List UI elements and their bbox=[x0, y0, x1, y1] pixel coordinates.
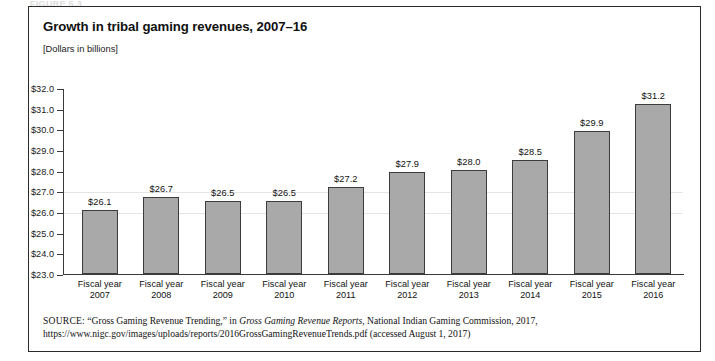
x-axis-category-label: Fiscal year2014 bbox=[508, 279, 552, 301]
bar-chart-plot-area: $32.0$31.0$30.0$29.0$28.0$27.0$26.0$25.0… bbox=[63, 89, 684, 275]
x-axis-category-label: Fiscal year2013 bbox=[447, 279, 491, 301]
bar-group[interactable]: $28.5Fiscal year2014 bbox=[512, 160, 548, 274]
source-note: SOURCE: “Gross Gaming Revenue Trending,”… bbox=[43, 314, 691, 341]
y-axis-tick bbox=[57, 89, 63, 90]
bar-value-label: $27.2 bbox=[334, 174, 357, 184]
bar[interactable] bbox=[389, 172, 425, 273]
y-axis-tick-label: $27.0 bbox=[31, 187, 54, 197]
bar[interactable] bbox=[143, 197, 179, 273]
bar-value-label: $28.5 bbox=[519, 147, 542, 157]
x-axis-category-label: Fiscal year2010 bbox=[262, 279, 306, 301]
bar-group[interactable]: $27.2Fiscal year2011 bbox=[328, 187, 364, 274]
y-axis-tick bbox=[57, 151, 63, 152]
y-axis-tick bbox=[57, 192, 63, 193]
y-axis-tick-label: $25.0 bbox=[31, 229, 54, 239]
y-axis-tick bbox=[57, 130, 63, 131]
bar[interactable] bbox=[574, 131, 610, 274]
bar[interactable] bbox=[512, 160, 548, 274]
y-axis-tick-label: $31.0 bbox=[31, 105, 54, 115]
figure-container: Growth in tribal gaming revenues, 2007–1… bbox=[28, 6, 701, 352]
bar-group[interactable]: $28.0Fiscal year2013 bbox=[451, 170, 487, 273]
bar-value-label: $27.9 bbox=[396, 159, 419, 169]
source-label: SOURCE: bbox=[43, 315, 85, 326]
source-text-part1: “Gross Gaming Revenue Trending,” in bbox=[85, 315, 239, 326]
x-axis-line bbox=[63, 274, 684, 275]
y-axis-tick bbox=[57, 254, 63, 255]
bar-group[interactable]: $26.7Fiscal year2008 bbox=[143, 197, 179, 273]
bar[interactable] bbox=[328, 187, 364, 274]
bar-value-label: $28.0 bbox=[457, 157, 480, 167]
bar-value-label: $26.7 bbox=[150, 184, 173, 194]
y-axis-tick bbox=[57, 275, 63, 276]
chart-subtitle: [Dollars in billions] bbox=[43, 44, 118, 54]
y-axis-tick-label: $26.0 bbox=[31, 208, 54, 218]
bar-value-label: $26.5 bbox=[211, 188, 234, 198]
y-axis-tick bbox=[57, 110, 63, 111]
bar-value-label: $26.5 bbox=[273, 188, 296, 198]
y-axis-line bbox=[63, 89, 64, 275]
bar[interactable] bbox=[451, 170, 487, 273]
x-axis-category-label: Fiscal year2016 bbox=[631, 279, 675, 301]
bar[interactable] bbox=[82, 210, 118, 274]
bar[interactable] bbox=[205, 201, 241, 273]
x-axis-category-label: Fiscal year2012 bbox=[385, 279, 429, 301]
y-axis-tick bbox=[57, 213, 63, 214]
y-axis-tick bbox=[57, 234, 63, 235]
x-axis-category-label: Fiscal year2011 bbox=[324, 279, 368, 301]
page-title: Growth in tribal gaming revenues, 2007–1… bbox=[43, 19, 307, 34]
y-axis-tick-label: $23.0 bbox=[31, 270, 54, 280]
y-axis-tick-label: $29.0 bbox=[31, 146, 54, 156]
bar-group[interactable]: $31.2Fiscal year2016 bbox=[635, 104, 671, 273]
y-axis-tick-label: $28.0 bbox=[31, 167, 54, 177]
y-axis-tick-label: $32.0 bbox=[31, 84, 54, 94]
bar[interactable] bbox=[266, 201, 302, 273]
bar-value-label: $31.2 bbox=[642, 91, 665, 101]
bar[interactable] bbox=[635, 104, 671, 273]
y-axis-tick-label: $30.0 bbox=[31, 125, 54, 135]
bar-group[interactable]: $29.9Fiscal year2015 bbox=[574, 131, 610, 274]
x-axis-category-label: Fiscal year2015 bbox=[570, 279, 614, 301]
x-axis-category-label: Fiscal year2007 bbox=[78, 279, 122, 301]
source-publication-title: Gross Gaming Revenue Reports bbox=[239, 315, 362, 326]
bar-value-label: $29.9 bbox=[580, 118, 603, 128]
bar-group[interactable]: $26.1Fiscal year2007 bbox=[82, 210, 118, 274]
bar-group[interactable]: $26.5Fiscal year2009 bbox=[205, 201, 241, 273]
bar-group[interactable]: $26.5Fiscal year2010 bbox=[266, 201, 302, 273]
x-axis-category-label: Fiscal year2008 bbox=[139, 279, 183, 301]
bar-group[interactable]: $27.9Fiscal year2012 bbox=[389, 172, 425, 273]
bar-value-label: $26.1 bbox=[88, 197, 111, 207]
y-axis-tick bbox=[57, 172, 63, 173]
y-axis-tick-label: $24.0 bbox=[31, 249, 54, 259]
x-axis-category-label: Fiscal year2009 bbox=[201, 279, 245, 301]
